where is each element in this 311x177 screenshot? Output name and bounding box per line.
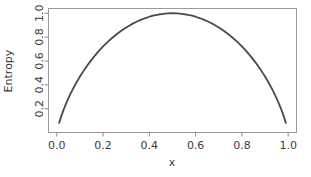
y-axis-tick-labels: 0.20.40.60.81.0 <box>33 5 46 118</box>
entropy-chart: 0.00.20.40.60.81.0 0.20.40.60.81.0 x Ent… <box>0 0 311 177</box>
x-tick-label: 1.0 <box>279 139 297 152</box>
x-tick-label: 0.0 <box>48 139 66 152</box>
y-tick-label: 0.8 <box>33 28 46 46</box>
x-tick-label: 0.2 <box>94 139 112 152</box>
y-axis-title: Entropy <box>2 49 15 92</box>
chart-canvas: 0.00.20.40.60.81.0 0.20.40.60.81.0 x Ent… <box>0 0 311 177</box>
x-tick-label: 0.6 <box>187 139 205 152</box>
y-tick-label: 0.6 <box>33 52 46 70</box>
y-tick-label: 0.4 <box>33 76 46 94</box>
y-tick-label: 0.2 <box>33 100 46 118</box>
x-tick-label: 0.4 <box>141 139 159 152</box>
x-tick-label: 0.8 <box>233 139 251 152</box>
x-axis-title: x <box>169 156 176 169</box>
y-tick-label: 1.0 <box>33 5 46 23</box>
